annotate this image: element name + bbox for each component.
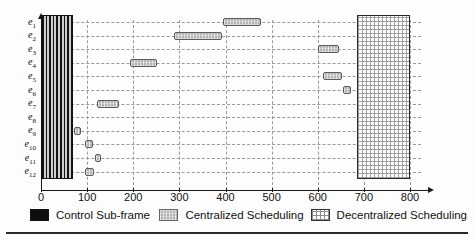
y-axis-label-e12: e12 — [2, 165, 36, 179]
centralized-bar-e12 — [85, 168, 93, 176]
centralized-bar-e10 — [85, 140, 92, 148]
centralized-bar-e2 — [174, 32, 222, 40]
x-tick-label: 700 — [344, 191, 384, 203]
legend-label-centralized: Centralized Scheduling — [185, 209, 303, 221]
centralized-bar-e4 — [130, 59, 158, 67]
x-tick-label: 100 — [67, 191, 107, 203]
control-subframe-block — [41, 15, 73, 179]
decentralized-swatch-icon — [311, 209, 330, 221]
vertical-gridline — [226, 20, 227, 190]
vertical-gridline — [410, 20, 411, 190]
y-axis-label-e2: e2 — [2, 29, 36, 43]
y-axis-label-e1: e1 — [2, 16, 36, 30]
vertical-gridline — [179, 20, 180, 190]
y-axis-label-e7: e7 — [2, 97, 36, 111]
vertical-gridline — [272, 20, 273, 190]
chart-legend: Control Sub-frame Centralized Scheduling… — [8, 203, 467, 227]
y-axis-label-e3: e3 — [2, 43, 36, 57]
centralized-swatch-icon — [159, 209, 178, 221]
control-subframe-swatch-icon — [30, 209, 49, 221]
vertical-gridline — [87, 20, 88, 190]
y-axis-label-e5: e5 — [2, 70, 36, 84]
y-axis-label-e11: e11 — [2, 152, 36, 166]
centralized-bar-e9 — [74, 127, 81, 135]
centralized-bar-e5 — [323, 72, 341, 80]
legend-label-decentralized: Decentralized Scheduling — [337, 209, 467, 221]
x-tick-label: 0 — [21, 191, 61, 203]
y-axis-label-e10: e10 — [2, 138, 36, 152]
centralized-bar-e6 — [343, 86, 351, 94]
centralized-bar-e7 — [97, 100, 119, 108]
y-axis-label-e8: e8 — [2, 111, 36, 125]
x-tick-label: 400 — [206, 191, 246, 203]
x-tick-label: 800 — [390, 191, 430, 203]
legend-label-control-subframe: Control Sub-frame — [56, 209, 150, 221]
decentralized-scheduling-block — [357, 15, 410, 179]
legend-item-control-subframe: Control Sub-frame — [30, 209, 150, 221]
x-tick-label: 600 — [298, 191, 338, 203]
legend-item-centralized: Centralized Scheduling — [159, 209, 303, 221]
gantt-chart-figure: e1e2e3e4e5e6e7e8e9e10e11e12 010020030040… — [0, 0, 475, 240]
vertical-gridline — [133, 20, 134, 190]
y-axis-label-e9: e9 — [2, 124, 36, 138]
bottom-rule-divider — [6, 232, 468, 234]
x-tick-label: 300 — [159, 191, 199, 203]
legend-item-decentralized: Decentralized Scheduling — [311, 209, 467, 221]
x-tick-label: 500 — [252, 191, 292, 203]
y-axis-label-e6: e6 — [2, 84, 36, 98]
centralized-bar-e3 — [318, 45, 339, 53]
x-tick-label: 200 — [113, 191, 153, 203]
centralized-bar-e1 — [223, 18, 261, 26]
y-axis-label-e4: e4 — [2, 56, 36, 70]
centralized-bar-e11 — [95, 154, 101, 162]
